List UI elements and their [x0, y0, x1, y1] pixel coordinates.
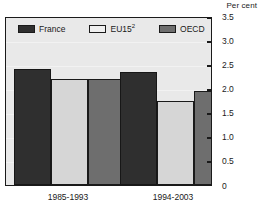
gridline-3-0	[6, 42, 211, 43]
legend-label-eu15-footnote: 2	[132, 23, 135, 29]
gridline-2-5	[6, 66, 211, 67]
legend-swatch-france-icon	[18, 25, 35, 33]
plot-area	[5, 17, 212, 186]
bar-eu15-1994-2003	[157, 101, 194, 185]
category-label-1994-2003: 1994-2003	[153, 192, 194, 202]
legend-label-france: France	[39, 24, 65, 34]
tick-label-3-0: 3.0	[222, 36, 234, 46]
chart-legend: France EU152 OECD	[18, 24, 205, 34]
bar-eu15-1985-1993	[51, 79, 88, 185]
tick-label-2-5: 2.5	[222, 60, 234, 70]
tick-label-1-5: 1.5	[222, 108, 234, 118]
legend-swatch-eu15-icon	[89, 25, 106, 33]
y-axis-unit-label: Per cent	[226, 1, 257, 10]
legend-label-eu15: EU152	[110, 24, 135, 34]
tick-mark-2-0	[207, 89, 212, 91]
legend-item-oecd: OECD	[159, 24, 205, 34]
tick-label-0: 0	[222, 181, 227, 191]
plot-inner	[6, 18, 211, 185]
legend-label-oecd: OECD	[180, 24, 205, 34]
legend-swatch-oecd-icon	[159, 25, 176, 33]
bar-france-1994-2003	[120, 72, 157, 185]
legend-item-france: France	[18, 24, 65, 34]
tick-mark-3-5	[207, 17, 212, 19]
tick-label-3-5: 3.5	[222, 12, 234, 22]
tick-label-1-0: 1.0	[222, 132, 234, 142]
chart-figure: Per cent 3.5 3.0 2.5 2.0 1.5 1.0 0.5 0	[0, 0, 259, 208]
legend-item-eu15: EU152	[89, 24, 135, 34]
legend-label-eu15-base: EU15	[110, 24, 131, 34]
tick-mark-1-0	[207, 137, 212, 139]
tick-mark-0-5	[207, 161, 212, 163]
category-label-1985-1993: 1985-1993	[48, 192, 89, 202]
tick-mark-1-5	[207, 113, 212, 115]
tick-label-2-0: 2.0	[222, 84, 234, 94]
tick-mark-2-5	[207, 65, 212, 67]
bar-france-1985-1993	[14, 69, 51, 185]
tick-label-0-5: 0.5	[222, 156, 234, 166]
tick-mark-3-0	[207, 41, 212, 43]
